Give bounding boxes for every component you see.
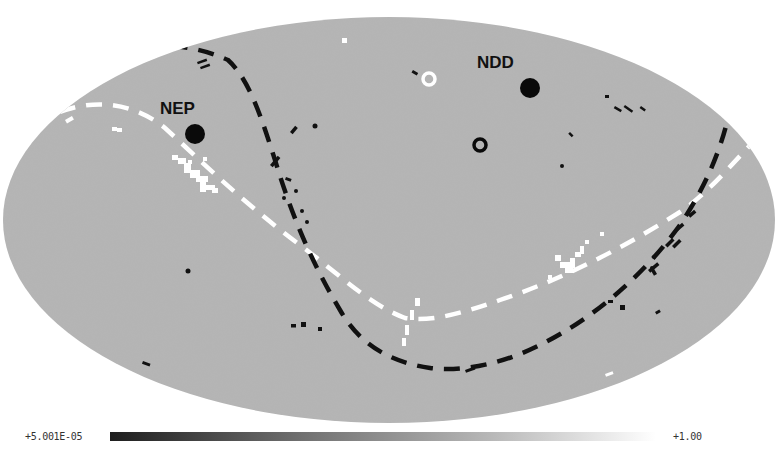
ndd-marker-icon [520, 78, 540, 98]
sky-map: NEP NDD [0, 0, 777, 450]
colorbar [110, 432, 656, 441]
colorbar-max-label: +1.00 [673, 431, 702, 442]
ndd-label: NDD [477, 53, 514, 72]
colorbar-min-label: +5.001E-05 [25, 431, 82, 442]
nep-label: NEP [160, 99, 195, 118]
nep-marker-icon [185, 124, 205, 144]
